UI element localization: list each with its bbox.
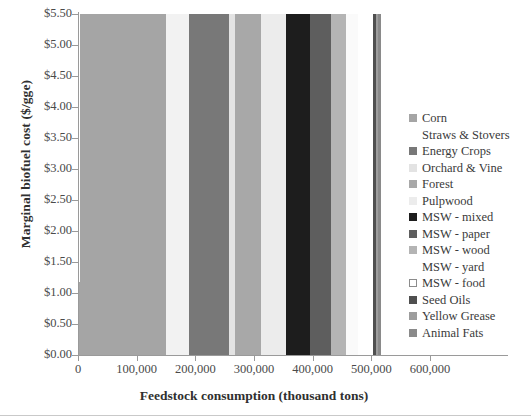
- y-tick-label: $3.00: [10, 161, 72, 176]
- y-axis-line: [78, 12, 79, 357]
- legend-item: Yellow Grease: [409, 308, 531, 325]
- y-tick-mark: [72, 293, 78, 294]
- y-tick-mark: [72, 107, 78, 108]
- legend-swatch-icon: [409, 147, 417, 155]
- x-axis-line: [78, 355, 508, 356]
- legend-label: Yellow Grease: [422, 310, 495, 323]
- legend-item: Forest: [409, 176, 531, 193]
- y-tick-label: $0.50: [10, 316, 72, 331]
- y-tick-mark: [72, 76, 78, 77]
- legend-swatch-icon: [409, 180, 417, 188]
- legend-label: MSW - paper: [422, 228, 490, 241]
- chart-band: [166, 14, 189, 355]
- y-tick-mark: [72, 169, 78, 170]
- legend-swatch-icon: [409, 164, 417, 172]
- legend-label: Animal Fats: [422, 327, 483, 340]
- y-tick-label: $4.50: [10, 68, 72, 83]
- chart-band: [331, 14, 345, 355]
- legend-item: MSW - yard: [409, 259, 531, 276]
- legend-label: MSW - food: [422, 277, 485, 290]
- chart-band: [346, 14, 359, 355]
- chart-legend: CornStraws & StoversEnergy CropsOrchard …: [409, 110, 531, 341]
- x-tick-mark: [313, 355, 314, 361]
- y-axis-ticks: $0.00$0.50$1.00$1.50$2.00$2.50$3.00$3.50…: [0, 0, 72, 416]
- legend-item: MSW - mixed: [409, 209, 531, 226]
- legend-swatch-icon: [409, 312, 417, 320]
- legend-label: MSW - wood: [422, 244, 490, 257]
- legend-swatch-icon: [409, 279, 417, 287]
- chart-band: [235, 14, 261, 355]
- chart-band: [310, 14, 331, 355]
- y-tick-label: $2.50: [10, 192, 72, 207]
- y-tick-label: $5.00: [10, 37, 72, 52]
- y-tick-mark: [72, 14, 78, 15]
- y-tick-label: $3.50: [10, 130, 72, 145]
- legend-swatch-icon: [409, 246, 417, 254]
- legend-item: Orchard & Vine: [409, 160, 531, 177]
- legend-item: MSW - wood: [409, 242, 531, 259]
- legend-item: Animal Fats: [409, 325, 531, 342]
- chart-band: [286, 14, 311, 355]
- x-axis-title: Feedstock consumption (thousand tons): [78, 388, 430, 404]
- y-tick-mark: [72, 138, 78, 139]
- y-tick-mark: [72, 262, 78, 263]
- legend-swatch-icon: [409, 329, 417, 337]
- legend-item: Energy Crops: [409, 143, 531, 160]
- legend-swatch-icon: [409, 114, 417, 122]
- plot-area: [78, 14, 430, 355]
- legend-item: Pulpwood: [409, 193, 531, 210]
- y-tick-label: $0.00: [10, 347, 72, 362]
- legend-label: Corn: [422, 112, 447, 125]
- legend-label: Energy Crops: [422, 145, 491, 158]
- y-tick-mark: [72, 200, 78, 201]
- legend-item: Seed Oils: [409, 292, 531, 309]
- legend-label: MSW - yard: [422, 261, 484, 274]
- legend-item: MSW - paper: [409, 226, 531, 243]
- chart-band: [261, 14, 286, 355]
- legend-item: Corn: [409, 110, 531, 127]
- x-tick-mark: [254, 355, 255, 361]
- legend-label: MSW - mixed: [422, 211, 493, 224]
- legend-label: Seed Oils: [422, 294, 470, 307]
- chart-band: [378, 14, 380, 355]
- x-tick-mark: [78, 355, 79, 361]
- chart-band: [358, 14, 372, 355]
- x-tick-mark: [137, 355, 138, 361]
- y-tick-label: $1.50: [10, 254, 72, 269]
- legend-label: Orchard & Vine: [422, 162, 502, 175]
- y-tick-mark: [72, 231, 78, 232]
- y-tick-mark: [72, 324, 78, 325]
- legend-swatch-icon: [409, 263, 417, 271]
- y-tick-mark: [72, 45, 78, 46]
- chart-figure: Marginal biofuel cost ($/gge) $0.00$0.50…: [0, 0, 531, 416]
- legend-swatch-icon: [409, 230, 417, 238]
- y-tick-label: $1.00: [10, 285, 72, 300]
- x-tick-label: 600,000: [385, 362, 475, 377]
- legend-item: MSW - food: [409, 275, 531, 292]
- legend-label: Straws & Stovers: [422, 129, 510, 142]
- chart-band: [189, 14, 229, 355]
- legend-swatch-icon: [409, 197, 417, 205]
- y-tick-label: $2.00: [10, 223, 72, 238]
- legend-swatch-icon: [409, 296, 417, 304]
- legend-label: Forest: [422, 178, 453, 191]
- x-tick-mark: [195, 355, 196, 361]
- legend-label: Pulpwood: [422, 195, 473, 208]
- legend-swatch-icon: [409, 131, 417, 139]
- legend-swatch-icon: [409, 213, 417, 221]
- chart-band: [80, 14, 166, 355]
- legend-item: Straws & Stovers: [409, 127, 531, 144]
- y-tick-label: $4.00: [10, 99, 72, 114]
- x-tick-mark: [430, 355, 431, 361]
- x-tick-mark: [371, 355, 372, 361]
- y-tick-label: $5.50: [10, 6, 72, 21]
